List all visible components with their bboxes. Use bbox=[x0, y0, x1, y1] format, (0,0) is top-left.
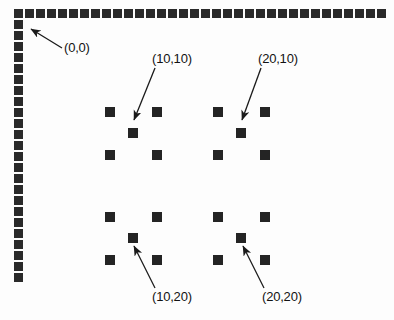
frame-dot-top bbox=[135, 9, 144, 18]
frame-dot-top bbox=[223, 9, 232, 18]
frame-dot-left bbox=[14, 108, 23, 117]
frame-dot-top bbox=[47, 9, 56, 18]
frame-dot-top bbox=[355, 9, 364, 18]
marker-corner-top-left bbox=[213, 212, 223, 222]
marker-corner-top-left bbox=[105, 107, 115, 117]
coordinate-label-cluster-20-20: (20,20) bbox=[262, 290, 302, 303]
frame-dot-top bbox=[179, 9, 188, 18]
frame-dot-top bbox=[234, 9, 243, 18]
frame-dot-top bbox=[300, 9, 309, 18]
marker-corner-bottom-left bbox=[105, 255, 115, 265]
coordinate-label-origin-annotation: (0,0) bbox=[64, 41, 90, 54]
frame-dot-top bbox=[311, 9, 320, 18]
pointer-arrow-cluster-20-20 bbox=[243, 246, 264, 288]
frame-dot-left bbox=[14, 218, 23, 227]
marker-corner-bottom-right bbox=[152, 255, 162, 265]
marker-corner-bottom-right bbox=[152, 150, 162, 160]
frame-dot-left bbox=[14, 196, 23, 205]
frame-dot-left bbox=[14, 262, 23, 271]
frame-dot-top bbox=[333, 9, 342, 18]
frame-dot-top bbox=[124, 9, 133, 18]
frame-dot-left bbox=[14, 130, 23, 139]
frame-dot-top bbox=[377, 9, 386, 18]
frame-dot-top bbox=[278, 9, 287, 18]
pointer-arrow-cluster-20-10 bbox=[242, 68, 261, 120]
frame-dot-left bbox=[14, 152, 23, 161]
frame-dot-top bbox=[289, 9, 298, 18]
marker-corner-top-left bbox=[105, 212, 115, 222]
frame-dot-top bbox=[80, 9, 89, 18]
frame-dot-left bbox=[14, 119, 23, 128]
coordinate-label-cluster-10-20: (10,20) bbox=[152, 290, 192, 303]
marker-corner-top-right bbox=[152, 107, 162, 117]
frame-dot-top bbox=[91, 9, 100, 18]
marker-corner-top-right bbox=[260, 212, 270, 222]
marker-center bbox=[236, 128, 246, 138]
annotation-arrows bbox=[0, 0, 394, 320]
frame-dot-left bbox=[14, 31, 23, 40]
marker-corner-top-right bbox=[260, 107, 270, 117]
marker-center bbox=[236, 233, 246, 243]
frame-dot-left bbox=[14, 20, 23, 29]
marker-center bbox=[128, 128, 138, 138]
frame-dot-left bbox=[14, 53, 23, 62]
frame-dot-top bbox=[157, 9, 166, 18]
frame-dot-top bbox=[322, 9, 331, 18]
frame-dot-top bbox=[267, 9, 276, 18]
marker-corner-bottom-left bbox=[105, 150, 115, 160]
frame-dot-top bbox=[14, 9, 23, 18]
frame-dot-top bbox=[256, 9, 265, 18]
frame-dot-left bbox=[14, 207, 23, 216]
frame-dot-top bbox=[366, 9, 375, 18]
frame-dot-top bbox=[212, 9, 221, 18]
frame-dot-top bbox=[102, 9, 111, 18]
marker-corner-bottom-left bbox=[213, 150, 223, 160]
coordinate-label-cluster-10-10: (10,10) bbox=[152, 52, 192, 65]
frame-dot-left bbox=[14, 229, 23, 238]
marker-corner-top-right bbox=[152, 212, 162, 222]
frame-dot-left bbox=[14, 273, 23, 282]
frame-dot-left bbox=[14, 86, 23, 95]
pointer-arrow-cluster-10-20 bbox=[134, 246, 155, 288]
frame-dot-top bbox=[146, 9, 155, 18]
frame-dot-top bbox=[58, 9, 67, 18]
frame-dot-left bbox=[14, 141, 23, 150]
marker-corner-bottom-left bbox=[213, 255, 223, 265]
frame-dot-top bbox=[113, 9, 122, 18]
frame-dot-top bbox=[69, 9, 78, 18]
frame-dot-left bbox=[14, 75, 23, 84]
frame-dot-left bbox=[14, 97, 23, 106]
marker-corner-top-left bbox=[213, 107, 223, 117]
frame-dot-top bbox=[190, 9, 199, 18]
frame-dot-left bbox=[14, 240, 23, 249]
frame-dot-left bbox=[14, 185, 23, 194]
frame-dot-top bbox=[25, 9, 34, 18]
frame-dot-left bbox=[14, 174, 23, 183]
frame-dot-left bbox=[14, 42, 23, 51]
marker-corner-bottom-right bbox=[260, 255, 270, 265]
frame-dot-top bbox=[245, 9, 254, 18]
frame-dot-left bbox=[14, 64, 23, 73]
marker-corner-bottom-right bbox=[260, 150, 270, 160]
marker-center bbox=[128, 233, 138, 243]
diagram-canvas: (10,10)(20,10)(10,20)(20,20)(0,0) bbox=[0, 0, 394, 320]
frame-dot-left bbox=[14, 163, 23, 172]
frame-dot-top bbox=[168, 9, 177, 18]
frame-dot-top bbox=[201, 9, 210, 18]
frame-dot-left bbox=[14, 251, 23, 260]
coordinate-label-cluster-20-10: (20,10) bbox=[258, 52, 298, 65]
frame-dot-top bbox=[36, 9, 45, 18]
frame-dot-top bbox=[344, 9, 353, 18]
pointer-arrow-origin-annotation bbox=[31, 29, 62, 48]
